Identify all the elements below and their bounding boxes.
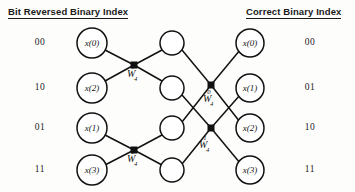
intermediate-node <box>160 31 184 55</box>
fft-butterfly-diagram: Bit Reversed Binary Index Correct Binary… <box>0 0 355 192</box>
right-index-label: 00 <box>296 37 324 47</box>
twiddle-factor-label: W04 <box>127 68 142 82</box>
signal-edge <box>211 128 240 163</box>
left-index-label: 10 <box>26 82 54 92</box>
right-index-label: 11 <box>296 164 324 174</box>
right-index-label: 01 <box>296 82 324 92</box>
intermediate-node <box>160 76 184 100</box>
left-index-label: 01 <box>26 122 54 132</box>
output-node-label: x(2) <box>243 123 258 133</box>
butterfly-junction-node <box>208 125 215 132</box>
intermediate-node <box>160 158 184 182</box>
signal-edge <box>134 135 162 150</box>
twiddle-factor-label: W04 <box>203 93 218 107</box>
output-node-label: x(3) <box>243 165 258 175</box>
output-node-label: x(0) <box>243 38 258 48</box>
input-node-label: x(3) <box>85 165 100 175</box>
right-index-label: 10 <box>296 122 324 132</box>
twiddle-factor-label: W04 <box>127 153 142 167</box>
left-index-label: 11 <box>26 164 54 174</box>
signal-edge <box>105 50 134 65</box>
signal-edge <box>182 50 211 85</box>
left-index-label: 00 <box>26 37 54 47</box>
node-layer <box>77 28 264 185</box>
signal-edge <box>105 135 134 150</box>
edge-layer <box>105 50 240 165</box>
input-node-label: x(2) <box>85 83 100 93</box>
intermediate-node <box>160 116 184 140</box>
signal-edge <box>134 50 162 65</box>
input-node-label: x(0) <box>85 38 100 48</box>
input-node-label: x(1) <box>85 123 100 133</box>
output-node-label: x(1) <box>243 83 258 93</box>
signal-edge <box>211 50 240 85</box>
twiddle-factor-label: W14 <box>199 139 214 153</box>
